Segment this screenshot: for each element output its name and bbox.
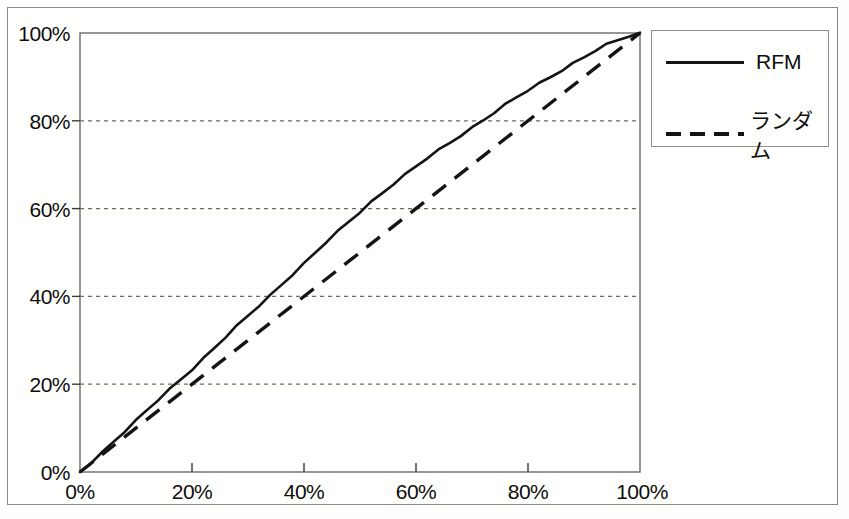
- y-tick-label-20: 20%: [8, 373, 70, 397]
- legend-item-rfm: RFM: [666, 50, 802, 74]
- x-tick-label-0: 0%: [42, 480, 118, 504]
- y-tick-label-60: 60%: [8, 198, 70, 222]
- legend-label-rfm: RFM: [756, 50, 802, 74]
- chart-figure: 100% 80% 60% 40% 20% 0% 0% 20% 40% 60% 8…: [0, 0, 849, 519]
- x-tick-label-40: 40%: [266, 480, 342, 504]
- y-tick-label-40: 40%: [8, 285, 70, 309]
- y-tick-label-80: 80%: [8, 110, 70, 134]
- legend-swatch-dashed-icon: [666, 126, 738, 142]
- y-axis-ticks: [72, 121, 80, 384]
- y-tick-label-100: 100%: [8, 22, 70, 46]
- x-tick-label-80: 80%: [490, 480, 566, 504]
- x-tick-label-100: 100%: [600, 480, 684, 504]
- legend-item-random: ランダム: [666, 104, 828, 164]
- x-tick-label-20: 20%: [154, 480, 230, 504]
- chart-legend: RFM ランダム: [651, 30, 829, 147]
- legend-swatch-solid-icon: [666, 54, 744, 70]
- legend-label-random: ランダム: [750, 104, 828, 164]
- x-tick-label-60: 60%: [378, 480, 454, 504]
